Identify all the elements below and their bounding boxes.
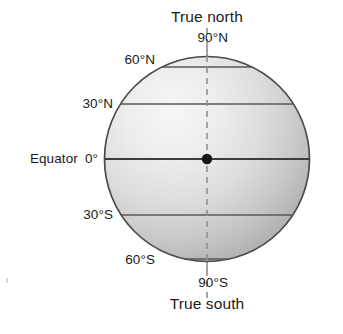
label-60n: 60°N bbox=[124, 53, 155, 67]
label-30s: 30°S bbox=[83, 208, 113, 222]
label-90n: 90°N bbox=[197, 31, 228, 45]
label-equator-name: Equator bbox=[30, 151, 78, 166]
label-equator: Equator0° bbox=[30, 152, 98, 166]
label-true-south: True south bbox=[170, 296, 245, 312]
label-90s: 90°S bbox=[198, 276, 228, 290]
earth-center-dot bbox=[202, 154, 212, 164]
scan-speck bbox=[6, 278, 8, 283]
label-30n: 30°N bbox=[82, 97, 113, 111]
earth-latitude-diagram: True north 90°N 60°N 30°N Equator0° 30°S… bbox=[0, 0, 343, 334]
label-equator-value: 0° bbox=[85, 151, 98, 166]
label-60s: 60°S bbox=[125, 253, 155, 267]
label-true-north: True north bbox=[171, 9, 243, 25]
globe-graphic bbox=[0, 0, 343, 334]
